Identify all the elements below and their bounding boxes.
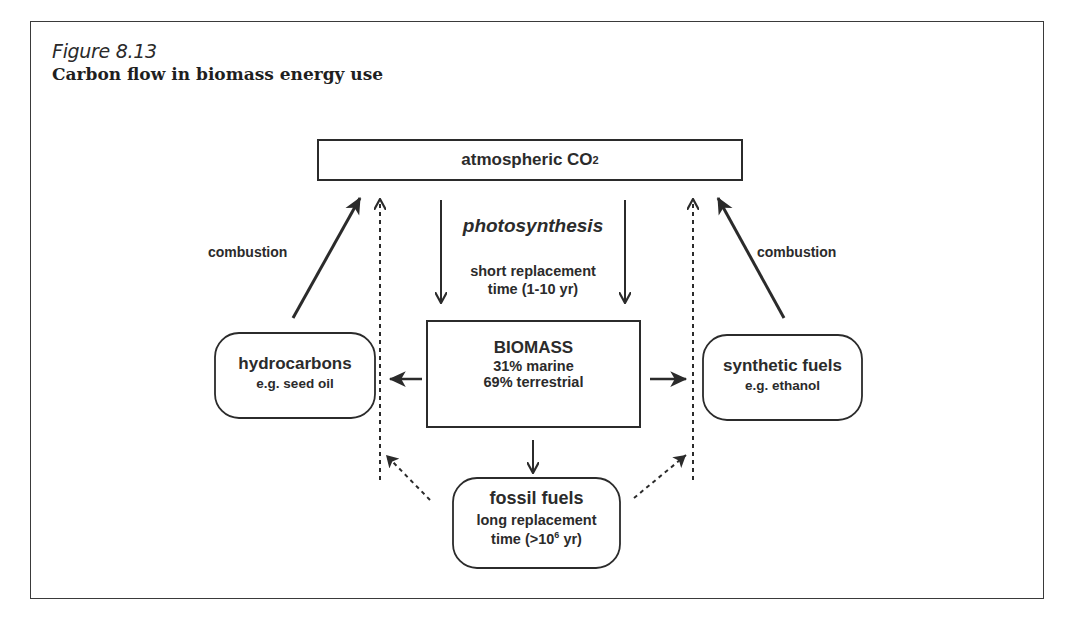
synthetic-fuels-title: synthetic fuels (703, 356, 862, 376)
synthetic-fuels-label: synthetic fuels e.g. ethanol (703, 356, 862, 393)
hydrocarbons-label: hydrocarbons e.g. seed oil (215, 354, 375, 391)
synthetic-fuels-example: e.g. ethanol (703, 378, 862, 394)
fossil-note-line2-prefix: time (>10 (491, 531, 554, 547)
atmosphere-label: atmospheric CO2 (318, 140, 742, 180)
fossil-fuels-title: fossil fuels (453, 488, 620, 509)
hydrocarbons-example: e.g. seed oil (215, 376, 375, 392)
hydrocarbons-title: hydrocarbons (215, 354, 375, 374)
fossil-fuels-note: long replacement time (>106 yr) (453, 511, 620, 549)
short-replacement-note: short replacement time (1-10 yr) (445, 262, 621, 298)
photosynthesis-label: photosynthesis (445, 215, 621, 237)
biomass-terrestrial: 69% terrestrial (427, 374, 640, 391)
combustion-arrow-left (293, 198, 360, 318)
combustion-label-right: combustion (757, 244, 836, 260)
biomass-title: BIOMASS (427, 338, 640, 358)
fossil-fuels-label: fossil fuels long replacement time (>106… (453, 488, 620, 548)
dotted-arrow-fossil-right (634, 455, 686, 498)
fossil-note-line1: long replacement (476, 512, 596, 528)
atmosphere-subscript: 2 (593, 154, 599, 167)
short-replacement-line1: short replacement (470, 263, 596, 279)
fossil-note-line2-suffix: yr) (559, 531, 582, 547)
biomass-label: BIOMASS 31% marine 69% terrestrial (427, 338, 640, 391)
dotted-arrow-fossil-left (386, 455, 430, 500)
biomass-marine: 31% marine (427, 358, 640, 375)
short-replacement-line2: time (1-10 yr) (488, 281, 578, 297)
combustion-label-left: combustion (208, 244, 287, 260)
atmosphere-text: atmospheric CO (461, 150, 592, 170)
